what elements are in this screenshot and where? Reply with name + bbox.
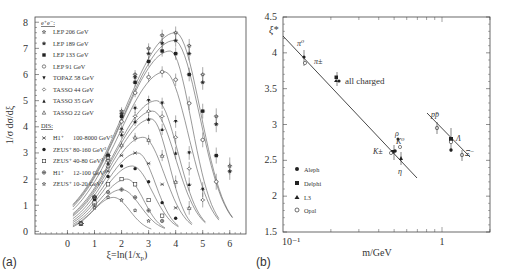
y-tick-label: 7: [23, 43, 28, 54]
legend-entry: TASSO 35 GeV: [53, 97, 94, 104]
annotation-eta: η: [398, 167, 402, 176]
panel-b: 1.522.533.544.5 ξ* m/GeV 10⁻¹ 1 (b): [256, 11, 490, 269]
y-tick-label: 4: [23, 121, 28, 132]
y-tick-label: 3: [272, 119, 277, 130]
legend-entry: LEP 206 GeV: [53, 28, 89, 35]
y-tick-label: 1: [23, 200, 28, 211]
panel-a-legend: e⁺e⁻: LEP 206 GeVLEP 189 GeVLEP 133 GeVL…: [41, 19, 113, 187]
annotation-all-charged: all charged: [345, 76, 385, 86]
legend-entry: TASSO 44 GeV: [53, 86, 94, 93]
y-tick-label: 4.5: [265, 11, 278, 22]
legend-delphi: Delphi: [304, 180, 321, 187]
y-tick-label: 6: [23, 69, 28, 80]
panel-a-fit-curves: [73, 33, 233, 229]
panel-b-x-axis-label: m/GeV: [362, 247, 392, 258]
panel-a-data-points: [78, 26, 232, 225]
legend-entry: TOPAZ 58 GeV: [53, 74, 94, 81]
x-tick-label: 1: [92, 238, 97, 249]
y-tick-label: 3.5: [265, 83, 278, 94]
panel-b-frame: [283, 17, 490, 232]
legend-ee-heading: e⁺e⁻:: [41, 19, 55, 26]
panel-b-data-points: [302, 50, 463, 165]
legend-entry: LEP 189 GeV: [53, 40, 89, 47]
annotation-k-charged: K±: [372, 147, 383, 156]
annotation-ppbar: pp̄: [430, 110, 439, 119]
legend-entry-range: 12-100 GeV²: [73, 169, 106, 176]
legend-entry: ZEUS⁺: [53, 157, 72, 164]
y-tick-label: 2: [23, 174, 28, 185]
y-tick-label: 2: [272, 190, 277, 201]
legend-l3: L3: [304, 194, 311, 201]
legend-entry: LEP 91 GeV: [53, 63, 86, 70]
aleph-marker-icon: [295, 167, 299, 171]
panel-a-y-axis-label: 1/σ dσ/dξ: [4, 105, 16, 144]
annotation-lambda: Λ: [455, 134, 461, 143]
x-tick-label: 4: [173, 238, 178, 249]
panel-b-label: (b): [256, 255, 271, 269]
annotation-xi: Ξ⁻: [465, 149, 474, 158]
legend-dis-heading: DIS:: [41, 122, 53, 129]
panel-b-x-tick-min: 10⁻¹: [282, 236, 300, 247]
opal-marker-icon: [295, 208, 299, 212]
annotation-pi0: π⁰: [297, 39, 305, 48]
x-tick-label: 3: [146, 238, 151, 249]
x-tick-label: 2: [119, 238, 124, 249]
legend-entry: ZEUS⁺: [53, 146, 72, 153]
x-tick-label: 0: [65, 238, 70, 249]
panel-b-legend: Aleph Delphi L3 Opal: [295, 166, 322, 214]
legend-entry-range: 10-20 GeV²: [73, 180, 103, 187]
panel-a-frame: [35, 17, 246, 234]
y-tick-label: 5: [23, 95, 28, 106]
x-tick-label: 6: [227, 238, 232, 249]
baryon-fit-line: [427, 113, 470, 157]
legend-entry: LEP 133 GeV: [53, 51, 89, 58]
legend-entry: H1⁺: [53, 169, 64, 176]
figure: 012345678 0123456 1/σ dσ/dξ ξ=ln(1/xp) (…: [0, 0, 506, 272]
legend-aleph: Aleph: [304, 166, 320, 173]
panel-a-label: (a): [2, 255, 17, 269]
panel-b-x-tick-one: 1: [440, 236, 445, 247]
legend-entry: H1⁺: [53, 134, 64, 141]
x-tick-label: 5: [200, 238, 205, 249]
legend-opal: Opal: [304, 207, 316, 214]
l3-marker-icon: [295, 195, 300, 199]
panel-a-x-axis-label: ξ=ln(1/xp): [107, 249, 148, 262]
panel-a: 012345678 0123456 1/σ dσ/dξ ξ=ln(1/xp) (…: [2, 17, 246, 269]
y-tick-label: 4: [272, 47, 277, 58]
panel-b-x-ticks: [331, 17, 490, 232]
annotation-k0: K⁰: [395, 137, 405, 146]
y-tick-label: 0: [23, 226, 28, 237]
legend-entry-range: 40-80 GeV²: [73, 157, 103, 164]
y-tick-label: 3: [23, 147, 28, 158]
panel-b-annotations: π⁰ π± all charged K± ρ K⁰ η pp̄ Λ Ξ⁻: [297, 39, 474, 176]
panel-a-y-ticks: 012345678: [23, 17, 39, 237]
panel-b-y-axis-label: ξ*: [269, 24, 278, 36]
legend-entry-range: 100-8000 GeV²: [73, 134, 113, 141]
y-tick-label: 8: [23, 17, 28, 28]
annotation-pi-charged: π±: [314, 57, 323, 66]
y-tick-label: 1.5: [265, 226, 278, 237]
legend-entry: ZEUS⁺: [53, 180, 72, 187]
y-tick-label: 2.5: [265, 154, 278, 165]
legend-entry: TASSO 22 GeV: [53, 109, 94, 116]
delphi-marker-icon: [295, 181, 299, 185]
legend-entry-range: 80-160 GeV²: [73, 146, 106, 153]
panel-a-x-ticks: 0123456: [40, 230, 240, 249]
